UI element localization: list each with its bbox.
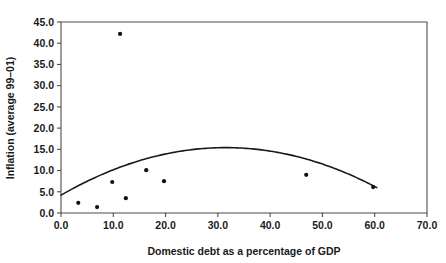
x-tick-label: 10.0	[103, 219, 124, 231]
x-tick-label: 60.0	[364, 219, 385, 231]
data-point	[162, 179, 166, 183]
x-tick-label: 0.0	[54, 219, 69, 231]
y-tick-label: 30.0	[34, 79, 55, 91]
x-tick-label: 50.0	[312, 219, 333, 231]
scatter-chart: 0.010.020.030.040.050.060.070.0 0.05.010…	[0, 0, 446, 263]
x-tick-label: 40.0	[260, 219, 281, 231]
y-tick-label: 35.0	[34, 58, 55, 70]
data-point	[95, 205, 99, 209]
data-point	[118, 32, 122, 36]
data-point	[371, 185, 375, 189]
x-axis-title: Domestic debt as a percentage of GDP	[147, 245, 340, 257]
data-point	[144, 168, 148, 172]
data-point	[124, 196, 128, 200]
y-tick-label: 0.0	[39, 207, 54, 219]
y-tick-label: 10.0	[34, 164, 55, 176]
data-point	[304, 173, 308, 177]
x-tick-label: 20.0	[155, 219, 176, 231]
y-tick-label: 5.0	[39, 186, 54, 198]
x-tick-label: 70.0	[417, 219, 438, 231]
x-tick-label: 30.0	[208, 219, 229, 231]
y-tick-label: 15.0	[34, 143, 55, 155]
y-tick-label: 40.0	[34, 37, 55, 49]
data-point	[110, 180, 114, 184]
y-tick-label: 20.0	[34, 122, 55, 134]
chart-figure: 0.010.020.030.040.050.060.070.0 0.05.010…	[0, 0, 446, 263]
y-axis-title: Inflation (average 99–01)	[4, 57, 16, 180]
y-tick-label: 45.0	[34, 16, 55, 28]
y-tick-label: 25.0	[34, 101, 55, 113]
data-point	[76, 201, 80, 205]
